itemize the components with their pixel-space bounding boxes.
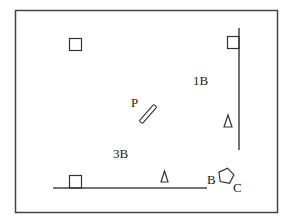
bottom-triangle-marker [161,171,168,182]
top-right-square [228,37,240,49]
label-b: B [207,172,216,187]
label-c: C [233,180,242,195]
label-1b: 1B [193,73,209,88]
tilted-bar [139,104,156,123]
top-left-square [70,39,82,51]
floor-plan-diagram: 1B P 3B B C [0,0,293,220]
bottom-left-square [70,176,82,189]
label-p: P [131,95,138,110]
right-triangle-marker [224,115,232,127]
label-3b: 3B [113,146,129,161]
